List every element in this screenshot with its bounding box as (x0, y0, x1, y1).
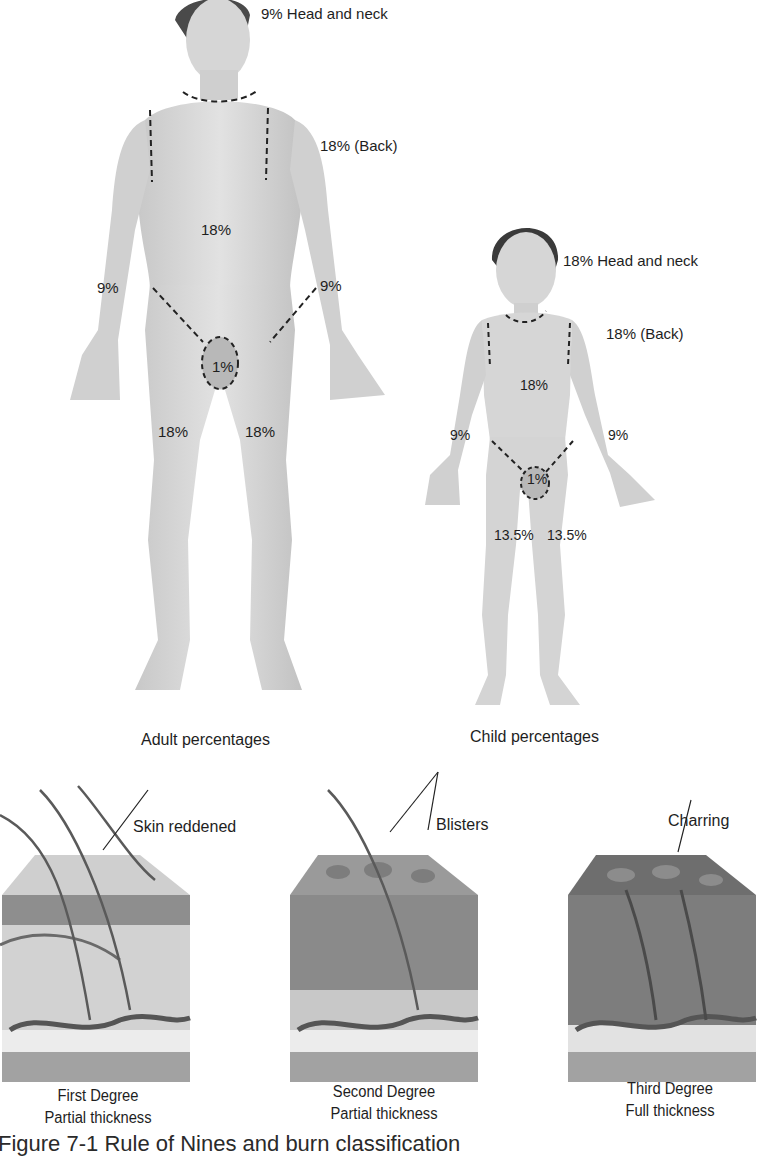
burn-third-degree (566, 820, 766, 1070)
burn-first-degree-caption: First Degree Partial thickness (15, 1085, 181, 1129)
child-label-back: 18% (Back) (606, 325, 684, 342)
burn-third-degree-label: Third Degree (587, 1078, 753, 1100)
callout-blisters: Blisters (436, 816, 488, 834)
burn-third-thickness-label: Full thickness (587, 1100, 753, 1122)
adult-label-leg-right: 18% (158, 423, 188, 440)
skin-cross-section-second (288, 820, 488, 1070)
child-label-head-neck: 18% Head and neck (563, 252, 698, 269)
adult-body-illustration (40, 0, 420, 700)
child-body-illustration (420, 215, 781, 705)
adult-label-torso-front: 18% (201, 221, 231, 238)
child-label-arm-left: 9% (608, 427, 628, 443)
adult-percentages-title: Adult percentages (141, 731, 270, 749)
adult-label-arm-left: 9% (320, 277, 342, 294)
child-label-genitals: 1% (527, 471, 547, 487)
adult-label-leg-left: 18% (245, 423, 275, 440)
skin-cross-section-first (0, 820, 200, 1070)
figure-caption: Figure 7-1 Rule of Nines and burn classi… (0, 1131, 460, 1157)
child-percentages-title: Child percentages (470, 728, 599, 746)
child-label-torso-front: 18% (520, 377, 548, 393)
burn-second-degree (288, 820, 488, 1070)
burn-second-degree-caption: Second Degree Partial thickness (301, 1081, 467, 1125)
adult-label-arm-right: 9% (97, 279, 119, 296)
burn-first-thickness-label: Partial thickness (15, 1107, 181, 1129)
skin-cross-section-third (566, 820, 766, 1070)
burn-second-degree-label: Second Degree (301, 1081, 467, 1103)
burn-first-degree-label: First Degree (15, 1085, 181, 1107)
adult-label-head-neck: 9% Head and neck (261, 5, 388, 22)
child-label-arm-right: 9% (450, 427, 470, 443)
burn-first-degree (0, 820, 200, 1070)
child-figure (420, 215, 781, 705)
burn-second-thickness-label: Partial thickness (301, 1103, 467, 1125)
callout-skin-reddened: Skin reddened (133, 818, 236, 836)
child-label-leg-right: 13.5% (494, 527, 534, 543)
callout-charring: Charring (668, 812, 729, 830)
adult-figure: 9% Head and neck 18% (Back) 18% 9% 9% 1%… (40, 0, 420, 700)
adult-label-genitals: 1% (212, 358, 234, 375)
child-label-leg-left: 13.5% (547, 527, 587, 543)
burn-third-degree-caption: Third Degree Full thickness (587, 1078, 753, 1122)
adult-label-back: 18% (Back) (320, 137, 398, 154)
